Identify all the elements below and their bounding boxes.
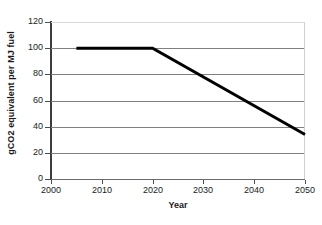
plot-area — [51, 22, 305, 179]
y-tick-label-20: 20 — [20, 148, 43, 157]
x-tick-label-2040: 2040 — [237, 186, 271, 195]
x-tick-2030 — [203, 180, 204, 184]
x-tick-label-2010: 2010 — [85, 186, 119, 195]
x-tick-2010 — [102, 180, 103, 184]
x-tick-label-2050: 2050 — [288, 186, 322, 195]
x-tick-2020 — [153, 180, 154, 184]
x-tick-label-2000: 2000 — [34, 186, 68, 195]
data-series-layer — [51, 22, 305, 179]
x-tick-2050 — [305, 180, 306, 184]
x-axis-line — [51, 179, 305, 180]
x-tick-2040 — [254, 180, 255, 184]
y-tick-label-40: 40 — [20, 122, 43, 131]
y-axis-title: gCO2 equivalent per MJ fuel — [0, 0, 22, 186]
y-tick-label-0: 0 — [20, 174, 43, 183]
x-tick-label-2030: 2030 — [186, 186, 220, 195]
y-tick-label-120: 120 — [20, 17, 43, 26]
series-line-gco2 — [76, 48, 305, 134]
x-axis-title: Year — [51, 200, 305, 210]
chart-figure: gCO2 equivalent per MJ fuel 020406080100… — [0, 0, 322, 225]
y-tick-label-60: 60 — [20, 96, 43, 105]
y-tick-label-80: 80 — [20, 69, 43, 78]
x-tick-label-2020: 2020 — [136, 186, 170, 195]
y-axis-title-text: gCO2 equivalent per MJ fuel — [6, 31, 16, 155]
y-tick-label-100: 100 — [20, 43, 43, 52]
x-tick-2000 — [51, 180, 52, 184]
